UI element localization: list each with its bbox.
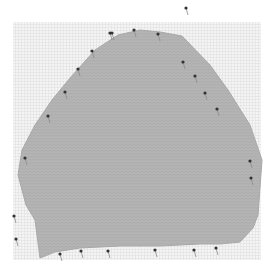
swatch-photo bbox=[0, 0, 273, 272]
photo-scene: Photo of a gray knitted swatch pinned ou… bbox=[0, 0, 273, 272]
pin-head bbox=[181, 60, 184, 63]
pin-head bbox=[12, 214, 15, 217]
pin-head bbox=[110, 31, 113, 34]
pin-head bbox=[214, 246, 217, 249]
pin-head bbox=[193, 74, 196, 77]
pin-head bbox=[106, 249, 109, 252]
pin-head bbox=[153, 248, 156, 251]
pin-head bbox=[79, 249, 82, 252]
pin-head bbox=[46, 114, 49, 117]
pin-head bbox=[14, 237, 17, 240]
pin-head bbox=[215, 107, 218, 110]
pin-head bbox=[132, 28, 135, 31]
pin-head bbox=[184, 6, 187, 9]
pin-head bbox=[248, 159, 251, 162]
pin-head bbox=[58, 252, 61, 255]
pin-head bbox=[23, 156, 26, 159]
pin-head bbox=[63, 90, 66, 93]
pin-head bbox=[203, 91, 206, 94]
pin-head bbox=[76, 67, 79, 70]
pin-head bbox=[90, 49, 93, 52]
pin-head bbox=[192, 248, 195, 251]
pin-head bbox=[156, 32, 159, 35]
pin-head bbox=[249, 176, 252, 179]
